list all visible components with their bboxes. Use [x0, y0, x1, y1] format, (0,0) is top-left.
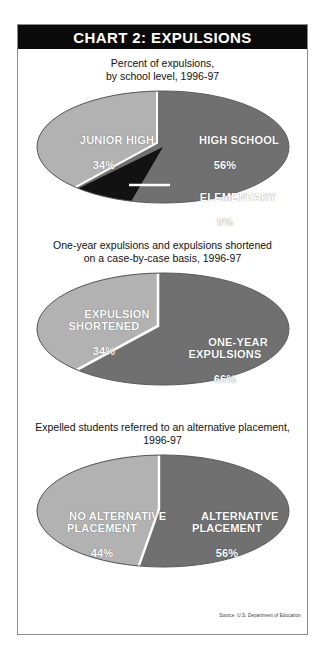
chart-3-heading-line2: 1996-97: [18, 434, 307, 447]
chart-2-heading: One-year expulsions and expulsions short…: [18, 239, 307, 265]
chart-3-heading: Expelled students referred to an alterna…: [18, 421, 307, 447]
chart-1-pie-block: JUNIOR HIGH 34% HIGH SCHOOL 56% ELEMENTA…: [18, 87, 307, 205]
chart-1-heading: Percent of expulsions, by school level, …: [18, 57, 307, 83]
chart-2-heading-line2: on a case-by-case basis, 1996-97: [18, 252, 307, 265]
chart-title-bar: CHART 2: EXPULSIONS: [18, 25, 307, 49]
chart-1-heading-line1: Percent of expulsions,: [18, 57, 307, 70]
chart-1-label-elementary-pct: 9%: [173, 216, 277, 229]
chart-3-pie-block: NO ALTERNATIVE PLACEMENT 44% ALTERNATIVE…: [18, 451, 307, 569]
chart-2-heading-line1: One-year expulsions and expulsions short…: [18, 239, 307, 252]
chart-panel: CHART 2: EXPULSIONS Percent of expulsion…: [17, 24, 308, 635]
page-title: CHART 2: EXPULSIONS: [73, 29, 251, 46]
chart-2-pie-block: EXPULSION SHORTENED 34% ONE-YEAR EXPULSI…: [18, 269, 307, 387]
chart-3-heading-line1: Expelled students referred to an alterna…: [18, 421, 307, 434]
chart-1-pie: JUNIOR HIGH 34% HIGH SCHOOL 56% ELEMENTA…: [33, 87, 292, 205]
source-note: Source: U.S. Department of Education: [18, 613, 301, 618]
chart-1-heading-line2: by school level, 1996-97: [18, 70, 307, 83]
chart-3-pie: NO ALTERNATIVE PLACEMENT 44% ALTERNATIVE…: [33, 451, 292, 569]
chart-2-pie: EXPULSION SHORTENED 34% ONE-YEAR EXPULSI…: [33, 269, 292, 387]
